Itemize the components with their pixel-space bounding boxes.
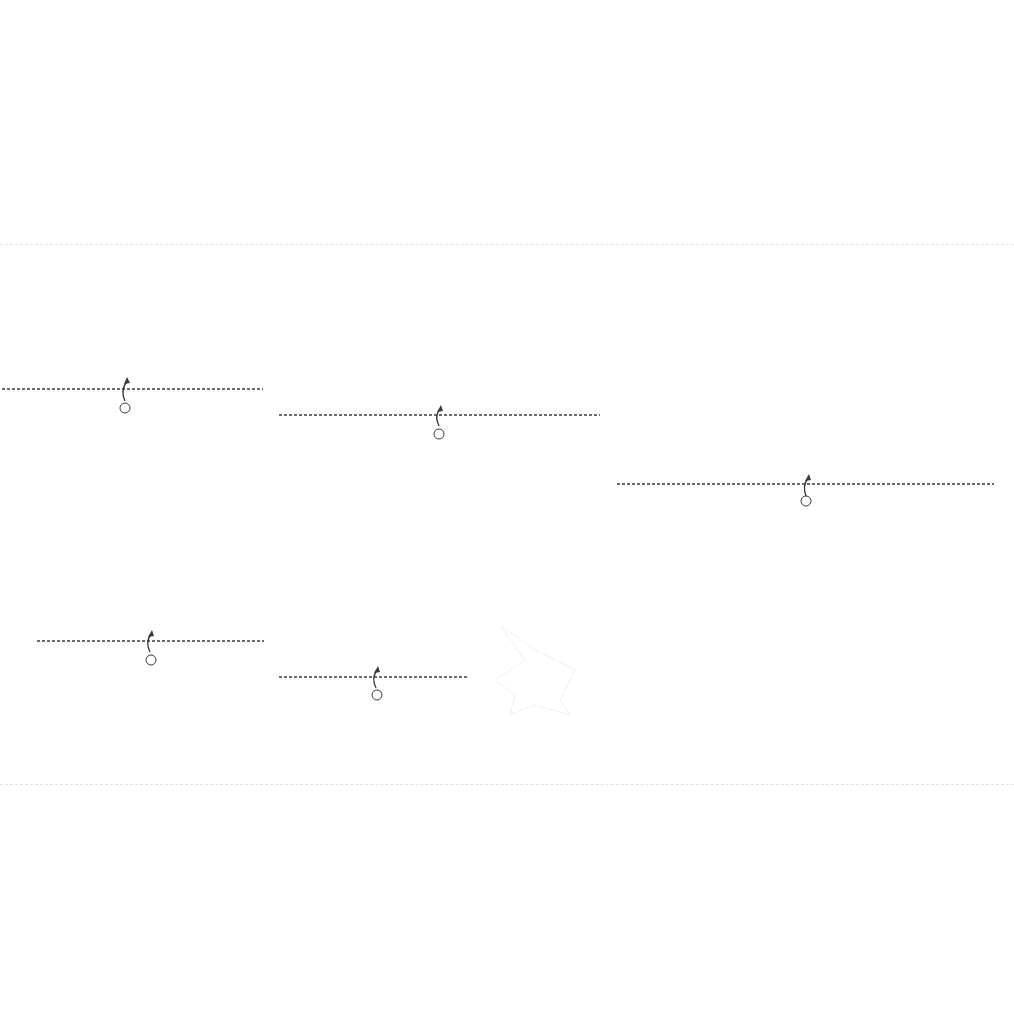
fold-arrow-icon <box>123 381 127 401</box>
step-marker-icon <box>801 496 811 506</box>
horizontal-valley-fold <box>607 293 1003 676</box>
step-marker-icon <box>434 429 444 439</box>
row-separator <box>0 784 1014 785</box>
horizontal-valley-fold <box>272 578 476 777</box>
sheet-mid-3 <box>607 293 1003 676</box>
horizontal-valley-fold <box>0 256 270 522</box>
horizontal-valley-fold <box>30 524 272 760</box>
sheet-mid-2 <box>272 254 605 580</box>
faint-star-outline <box>490 600 600 730</box>
sheet-mid-4 <box>30 524 272 760</box>
sheet-mid-1 <box>0 256 270 522</box>
sheet-mid-5 <box>272 578 476 777</box>
step-marker-icon <box>372 690 382 700</box>
step-marker-icon <box>120 403 130 413</box>
step-marker-icon <box>146 655 156 665</box>
row-separator <box>0 244 1014 245</box>
horizontal-valley-fold <box>272 254 605 580</box>
